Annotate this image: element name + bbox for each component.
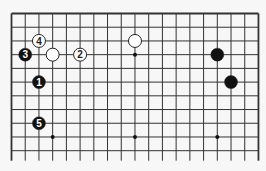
black-stone (211, 48, 224, 61)
go-diagram: 42315 (0, 0, 266, 171)
hoshi-point (215, 135, 219, 139)
black-stone (225, 76, 238, 89)
move-number: 1 (36, 77, 42, 88)
white-stone (46, 48, 59, 61)
hoshi-point (51, 135, 55, 139)
move-number: 4 (36, 36, 42, 47)
move-number: 2 (77, 49, 83, 60)
white-stone (128, 34, 141, 47)
hoshi-point (133, 135, 137, 139)
go-board: 42315 (0, 0, 266, 171)
move-number: 3 (22, 49, 28, 60)
move-number: 5 (36, 118, 42, 129)
hoshi-point (133, 53, 137, 57)
